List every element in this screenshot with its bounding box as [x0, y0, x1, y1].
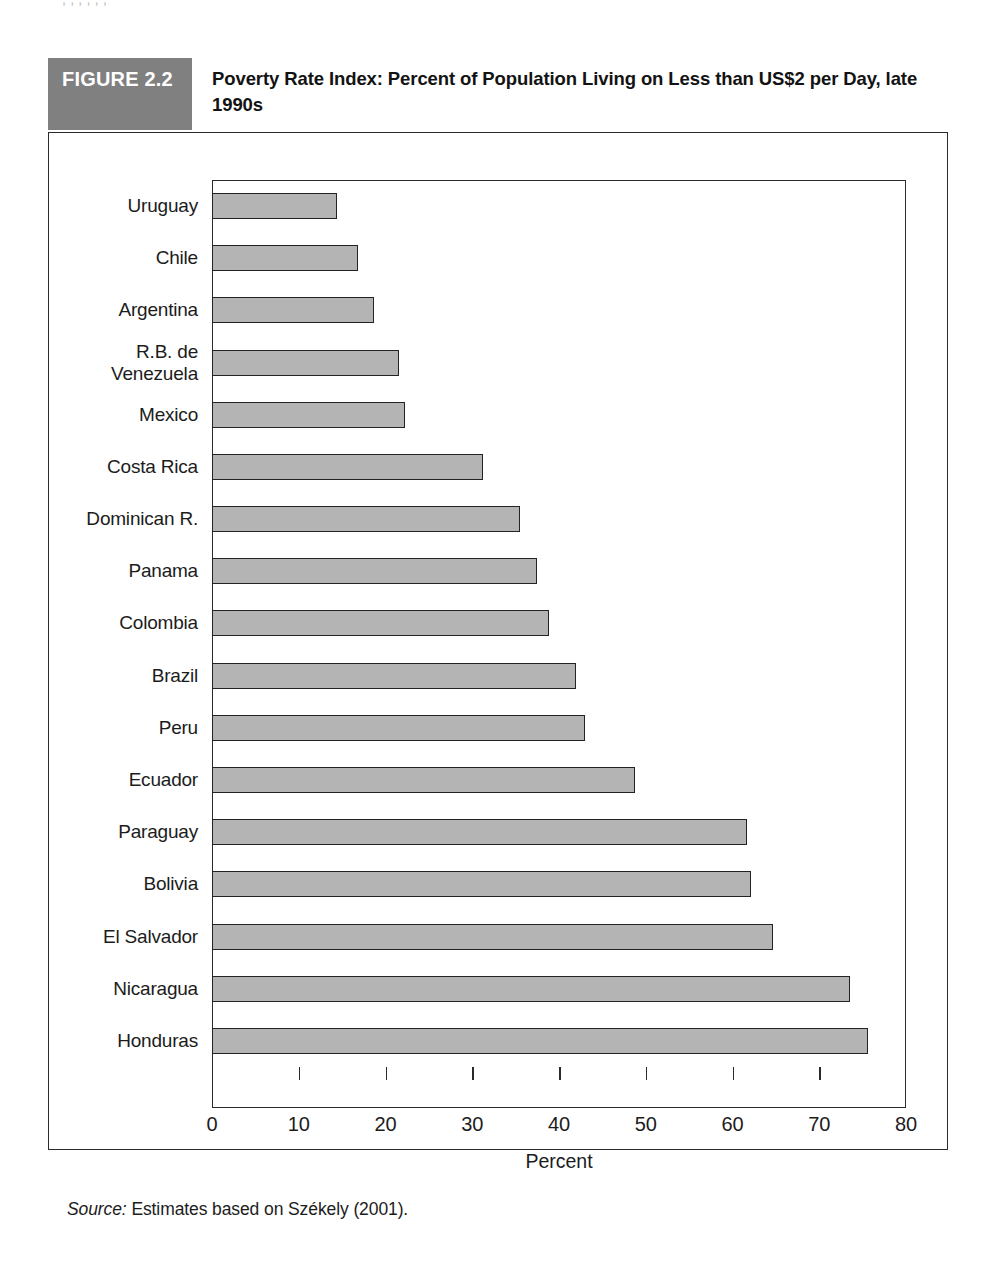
bar-row: El Salvador	[212, 910, 906, 962]
category-label: Colombia	[119, 612, 198, 634]
figure-box: UruguayChileArgentinaR.B. de VenezuelaMe…	[48, 132, 948, 1150]
x-axis-tick-label: 10	[288, 1113, 310, 1136]
bar	[212, 924, 773, 950]
bar	[212, 767, 635, 793]
bar-row: Honduras	[212, 1015, 906, 1067]
figure-title: Poverty Rate Index: Percent of Populatio…	[192, 58, 948, 119]
category-label: Nicaragua	[113, 978, 198, 1000]
category-label: Bolivia	[143, 873, 198, 895]
x-axis-tick	[299, 1067, 301, 1080]
bar-row: Chile	[212, 232, 906, 284]
x-axis-tick	[559, 1067, 561, 1080]
category-label: Uruguay	[128, 195, 198, 217]
x-axis-tick	[819, 1067, 821, 1080]
category-label: Mexico	[139, 404, 198, 426]
x-axis-title: Percent	[212, 1150, 906, 1173]
bar-row: R.B. de Venezuela	[212, 337, 906, 389]
bar	[212, 610, 549, 636]
bar	[212, 350, 399, 376]
bar	[212, 245, 358, 271]
bar	[212, 193, 337, 219]
x-axis-tick-label: 70	[808, 1113, 830, 1136]
source-note: Source: Estimates based on Székely (2001…	[67, 1199, 408, 1220]
source-text: Estimates based on Székely (2001).	[127, 1199, 409, 1219]
x-axis-tick-label: 50	[635, 1113, 657, 1136]
category-label: Dominican R.	[86, 508, 198, 530]
source-label: Source:	[67, 1199, 127, 1219]
bar	[212, 976, 850, 1002]
bar-row: Costa Rica	[212, 441, 906, 493]
bar	[212, 454, 483, 480]
category-label: Ecuador	[129, 769, 198, 791]
figure-container: FIGURE 2.2 Poverty Rate Index: Percent o…	[48, 58, 948, 1150]
x-axis-tick	[733, 1067, 735, 1080]
bar	[212, 819, 747, 845]
bars-area: UruguayChileArgentinaR.B. de VenezuelaMe…	[212, 180, 906, 1067]
x-axis-tick-label: 60	[721, 1113, 743, 1136]
figure-title-row: FIGURE 2.2 Poverty Rate Index: Percent o…	[48, 58, 948, 130]
bar-row: Uruguay	[212, 180, 906, 232]
bar-row: Brazil	[212, 650, 906, 702]
category-label: Brazil	[152, 665, 198, 687]
category-label: Argentina	[118, 299, 198, 321]
x-axis-tick	[386, 1067, 388, 1080]
bar	[212, 506, 520, 532]
bar	[212, 1028, 868, 1054]
category-label: Honduras	[117, 1030, 198, 1052]
category-label: Panama	[128, 560, 198, 582]
x-axis-tick-label: 80	[895, 1113, 917, 1136]
bar-row: Argentina	[212, 284, 906, 336]
bar	[212, 402, 405, 428]
bar-row: Ecuador	[212, 754, 906, 806]
bar-row: Peru	[212, 702, 906, 754]
category-label: Paraguay	[118, 821, 198, 843]
x-axis-tick-label: 40	[548, 1113, 570, 1136]
category-label: Chile	[156, 247, 198, 269]
x-axis-tick	[646, 1067, 648, 1080]
x-axis-tick-label: 0	[206, 1113, 217, 1136]
bar	[212, 297, 374, 323]
category-label: Peru	[159, 717, 198, 739]
figure-number-badge: FIGURE 2.2	[48, 58, 192, 130]
bar	[212, 871, 751, 897]
x-axis-tick-label: 30	[461, 1113, 483, 1136]
bar-row: Paraguay	[212, 806, 906, 858]
bar-chart: UruguayChileArgentinaR.B. de VenezuelaMe…	[49, 133, 947, 1149]
x-axis-tick	[472, 1067, 474, 1080]
bar-row: Colombia	[212, 597, 906, 649]
category-label: Costa Rica	[107, 456, 198, 478]
bar-row: Nicaragua	[212, 963, 906, 1015]
category-label: El Salvador	[103, 926, 198, 948]
x-axis-ticks: 01020304050607080	[212, 1067, 906, 1108]
category-label: R.B. de Venezuela	[111, 341, 198, 385]
bar	[212, 715, 585, 741]
bar-row: Mexico	[212, 389, 906, 441]
x-axis-tick-label: 20	[374, 1113, 396, 1136]
page-top-cropped-text: , , , , , ,	[62, 0, 762, 7]
bar	[212, 663, 576, 689]
bar-row: Bolivia	[212, 858, 906, 910]
bar-row: Panama	[212, 545, 906, 597]
bar-row: Dominican R.	[212, 493, 906, 545]
bar	[212, 558, 537, 584]
